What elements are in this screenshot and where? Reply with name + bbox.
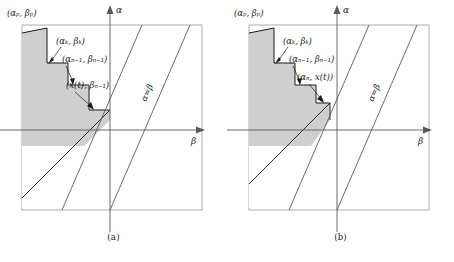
label-vertex-last-a: (x(t), βₙ₋₁)	[66, 80, 109, 90]
label-vertex-n1-b: (αₙ₋₁, βₙ₋₁)	[289, 54, 334, 64]
caption-a: (a)	[0, 232, 227, 242]
label-vertex-n1-a: (αₙ₋₁, βₙ₋₁)	[62, 54, 107, 64]
panel-a-plot: α β α=β (αₚ, βₚ) (αₖ, βₖ) (αₙ₋₁, βₙ₋₁) (…	[0, 0, 227, 232]
vertical-axis-arrow-b	[334, 5, 341, 14]
label-vertex-k-a: (αₖ, βₖ)	[56, 36, 85, 46]
label-corner-a: (αₚ, βₚ)	[7, 8, 37, 18]
label-vertex-k-b: (αₖ, βₖ)	[283, 36, 312, 46]
axis-label-beta-a: β	[190, 136, 196, 146]
caption-b: (b)	[227, 232, 454, 242]
axis-label-alpha-a: α	[116, 5, 122, 15]
panel-b: α β α=β (αₚ, βₚ) (αₖ, βₖ) (αₙ₋₁, βₙ₋₁) (…	[227, 0, 454, 262]
label-corner-b: (αₚ, βₚ)	[234, 8, 264, 18]
panel-a: α β α=β (αₚ, βₚ) (αₖ, βₖ) (αₙ₋₁, βₙ₋₁) (…	[0, 0, 227, 262]
preisach-diagram-figure: α β α=β (αₚ, βₚ) (αₖ, βₖ) (αₙ₋₁, βₙ₋₁) (…	[0, 0, 454, 262]
vertical-axis-arrow-a	[107, 5, 114, 14]
axis-label-alpha-b: α	[343, 5, 349, 15]
axis-label-beta-b: β	[417, 136, 423, 146]
panel-b-plot: α β α=β (αₚ, βₚ) (αₖ, βₖ) (αₙ₋₁, βₙ₋₁) (…	[227, 0, 454, 232]
label-vertex-last-b: (αₙ, x(t))	[297, 72, 333, 82]
